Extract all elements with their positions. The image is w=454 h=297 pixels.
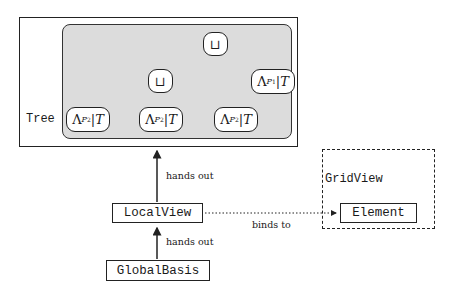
edge-label-hands-out: hands out bbox=[166, 236, 214, 247]
tree-leaf-node: ΛP2|T bbox=[139, 107, 183, 132]
edge-label-binds-to: binds to bbox=[252, 219, 291, 230]
tree-label: Tree bbox=[26, 112, 55, 126]
tree-leaf-node: ΛP2|T bbox=[66, 107, 110, 132]
edge-label-hands-out: hands out bbox=[166, 170, 214, 181]
globalbasis-box: GlobalBasis bbox=[106, 260, 210, 281]
tree-leaf-node: ΛP2|T bbox=[214, 107, 258, 132]
localview-box: LocalView bbox=[112, 203, 203, 223]
tree-leaf-node: ΛP1|T bbox=[251, 69, 295, 94]
gridview-label: GridView bbox=[325, 172, 383, 186]
union-symbol: ⊔ bbox=[155, 74, 166, 89]
union-symbol: ⊔ bbox=[210, 37, 221, 52]
tree-inner-node: ⊔ bbox=[148, 69, 173, 93]
element-box: Element bbox=[340, 203, 417, 223]
tree-root-node: ⊔ bbox=[203, 32, 228, 56]
